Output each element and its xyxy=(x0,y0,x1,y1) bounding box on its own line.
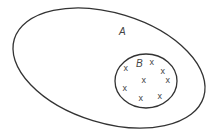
element-x-mark: x xyxy=(139,93,144,103)
set-a-label: A xyxy=(118,26,126,37)
element-x-mark: x xyxy=(124,63,129,73)
element-x-mark: x xyxy=(142,75,147,85)
set-a-ellipse xyxy=(0,0,217,134)
element-x-mark: x xyxy=(150,57,155,67)
element-x-mark: x xyxy=(158,91,163,101)
set-b-label: B xyxy=(136,58,143,69)
set-b-elements: xxxxxxxx xyxy=(123,57,171,103)
element-x-mark: x xyxy=(123,83,128,93)
element-x-mark: x xyxy=(166,75,171,85)
venn-diagram: A B xxxxxxxx xyxy=(0,0,217,134)
